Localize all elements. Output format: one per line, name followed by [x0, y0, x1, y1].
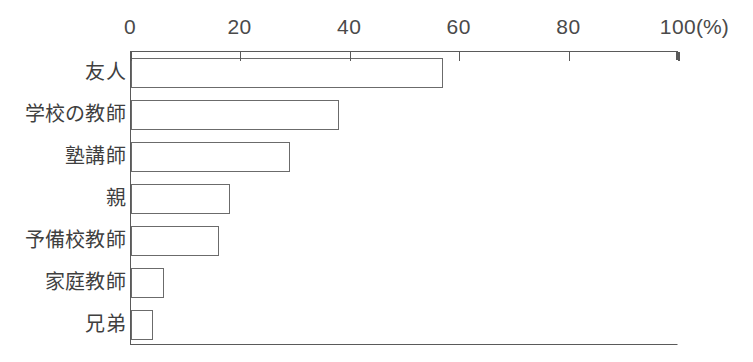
bar [131, 310, 153, 340]
bar [131, 268, 164, 298]
category-label: 兄弟 [85, 312, 126, 336]
x-axis-tick-label: 0 [124, 14, 136, 40]
x-axis-tick-label: 20 [227, 14, 251, 40]
x-axis-tick-mark [459, 52, 460, 61]
bar [131, 184, 230, 214]
x-axis-tick-mark [678, 52, 679, 61]
x-axis-tick-mark [130, 52, 131, 61]
bar [131, 100, 339, 130]
x-axis-tick-label: 40 [337, 14, 361, 40]
x-axis-tick-label: 100 [660, 14, 697, 40]
bar [131, 58, 443, 88]
x-axis-tick-mark [240, 52, 241, 61]
category-label: 家庭教師 [45, 270, 126, 294]
category-axis-labels: 友人学校の教師塾講師親予備校教師家庭教師兄弟 [0, 51, 126, 345]
category-label: 予備校教師 [25, 228, 127, 252]
category-label: 友人 [85, 60, 126, 84]
bar [131, 142, 290, 172]
x-axis-tick-labels: 020406080100(%) [0, 14, 753, 40]
plot-area [130, 51, 678, 345]
horizontal-bar-chart: 020406080100(%) 友人学校の教師塾講師親予備校教師家庭教師兄弟 [0, 0, 753, 362]
bars-layer [131, 52, 677, 344]
x-axis-tick-label: 80 [556, 14, 580, 40]
bar [131, 226, 219, 256]
category-label: 学校の教師 [25, 102, 127, 126]
category-label: 親 [106, 186, 126, 210]
x-axis-tick-mark [350, 52, 351, 61]
x-axis-unit-label: (%) [696, 14, 729, 40]
x-axis-tick-label: 60 [447, 14, 471, 40]
category-label: 塾講師 [65, 144, 126, 168]
x-axis-tick-mark [569, 52, 570, 61]
